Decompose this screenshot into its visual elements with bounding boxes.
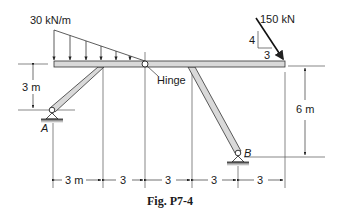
extension-lines xyxy=(18,52,325,188)
span-1-label: 3 m xyxy=(65,174,83,186)
hinge-label: Hinge xyxy=(157,74,186,86)
support-a-label: A xyxy=(40,122,48,134)
distributed-load-label: 30 kN/m xyxy=(30,14,71,26)
span-2-label: 3 xyxy=(120,174,126,186)
distributed-load xyxy=(54,30,145,61)
support-b-label: B xyxy=(244,147,251,159)
slope-rise-label: 4 xyxy=(249,34,255,46)
span-4-label: 3 xyxy=(211,174,217,186)
span-3-label: 3 xyxy=(165,174,171,186)
span-5-label: 3 xyxy=(257,174,263,186)
strut-a xyxy=(50,67,104,112)
frame-diagram: 30 kN/m Hinge A B 150 kN 4 3 3 m xyxy=(0,0,338,215)
beam xyxy=(54,61,285,67)
height-left-label: 3 m xyxy=(22,81,40,93)
point-load-label: 150 kN xyxy=(260,13,295,25)
strut-b xyxy=(188,67,241,153)
height-right-label: 6 m xyxy=(296,103,314,115)
figure-caption: Fig. P7-4 xyxy=(147,194,193,208)
structure-figure: 30 kN/m Hinge A B 150 kN 4 3 3 m xyxy=(0,0,338,215)
slope-run-label: 3 xyxy=(264,49,270,61)
pin-support-a xyxy=(41,107,63,123)
